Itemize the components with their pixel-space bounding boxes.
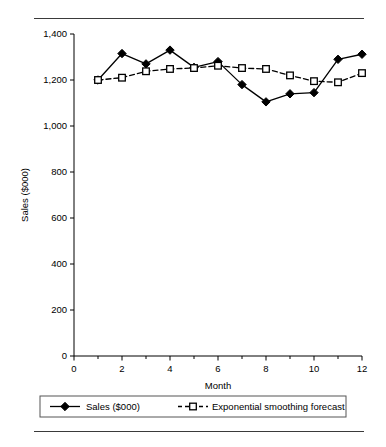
- sales-data-point: [358, 50, 366, 58]
- forecast-data-point: [239, 65, 246, 72]
- y-axis-tick-label: 200: [51, 304, 67, 315]
- x-axis-tick-label: 8: [263, 363, 268, 374]
- x-axis-tick-label: 6: [215, 363, 220, 374]
- sales-data-point: [334, 55, 342, 63]
- y-axis-title: Sales ($000): [19, 168, 30, 222]
- forecast-data-point: [95, 77, 102, 84]
- sales-data-point: [142, 60, 150, 68]
- legend-label-forecast: Exponential smoothing forecast: [212, 401, 345, 412]
- sales-data-point: [262, 98, 270, 106]
- y-axis-tick-label: 400: [51, 258, 67, 269]
- sales-series-line: [98, 50, 362, 102]
- forecast-data-point: [263, 66, 270, 73]
- x-axis-tick-label: 4: [167, 363, 172, 374]
- x-axis-tick-label: 12: [357, 363, 368, 374]
- forecast-data-point: [359, 70, 366, 77]
- forecast-data-point: [143, 68, 150, 75]
- forecast-data-point: [191, 65, 198, 72]
- x-axis-tick-label: 2: [119, 363, 124, 374]
- chart-figure: 02004006008001,0001,2001,400024681012Mon…: [0, 0, 386, 447]
- y-axis-tick-label: 1,400: [43, 28, 67, 39]
- legend-forecast-marker: [190, 403, 197, 410]
- y-axis-tick-label: 1,200: [43, 74, 67, 85]
- y-axis-tick-label: 800: [51, 166, 67, 177]
- legend-label-sales: Sales ($000): [86, 401, 140, 412]
- y-axis-tick-label: 600: [51, 212, 67, 223]
- forecast-data-point: [215, 62, 222, 69]
- x-axis-tick-label: 10: [309, 363, 320, 374]
- x-axis-title: Month: [205, 380, 231, 391]
- forecast-data-point: [119, 74, 126, 81]
- sales-data-point: [286, 90, 294, 98]
- sales-data-point: [310, 88, 318, 96]
- x-axis-tick-label: 0: [71, 363, 76, 374]
- forecast-data-point: [167, 66, 174, 73]
- line-chart: 02004006008001,0001,2001,400024681012Mon…: [0, 0, 386, 447]
- forecast-data-point: [287, 72, 294, 79]
- sales-data-point: [166, 46, 174, 54]
- forecast-data-point: [311, 78, 318, 85]
- forecast-data-point: [335, 79, 342, 86]
- y-axis-tick-label: 1,000: [43, 120, 67, 131]
- y-axis-tick-label: 0: [62, 350, 67, 361]
- forecast-series-line: [98, 66, 362, 83]
